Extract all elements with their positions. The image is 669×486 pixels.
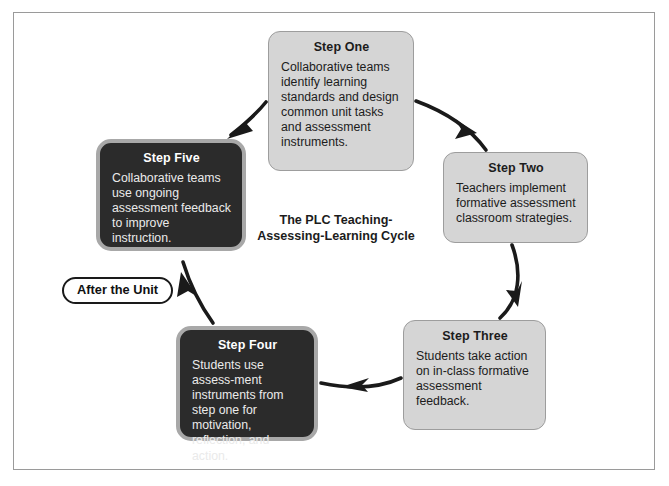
step-body-step-two: Teachers implement formative assessment … (456, 181, 576, 226)
step-title-step-four: Step Four (192, 338, 303, 353)
step-box-step-five[interactable]: Step Five Collaborative teams use ongoin… (96, 139, 246, 251)
step-box-step-three[interactable]: Step Three Students take action on in-cl… (403, 320, 546, 430)
step-box-step-two[interactable]: Step Two Teachers implement formative as… (443, 152, 588, 243)
step-body-step-five: Collaborative teams use ongoing assessme… (112, 171, 231, 246)
diagram-center-title: The PLC Teaching- Assessing-Learning Cyc… (246, 212, 426, 244)
step-title-step-three: Step Three (416, 329, 534, 344)
phase-label-after-the-unit: After the Unit (62, 277, 173, 304)
arrow-two-to-three (500, 245, 522, 318)
step-title-step-two: Step Two (456, 161, 576, 176)
step-body-step-four: Students use assess-ment instruments fro… (192, 358, 303, 464)
center-title-line-1: The PLC Teaching- (279, 213, 392, 227)
arrow-five-to-one (227, 102, 266, 139)
step-box-step-four[interactable]: Step Four Students use assess-ment instr… (176, 326, 318, 441)
step-body-step-one: Collaborative teams identify learning st… (281, 60, 402, 151)
step-box-step-one[interactable]: Step One Collaborative teams identify le… (268, 31, 414, 171)
center-title-line-2: Assessing-Learning Cycle (257, 229, 414, 243)
step-title-step-five: Step Five (112, 151, 231, 166)
diagram-page: Step One Collaborative teams identify le… (0, 0, 669, 486)
arrow-one-to-two (416, 101, 486, 150)
arrow-three-to-four (321, 378, 401, 392)
step-title-step-one: Step One (281, 40, 402, 55)
arrow-four-to-five (177, 262, 213, 323)
step-body-step-three: Students take action on in-class formati… (416, 349, 534, 409)
